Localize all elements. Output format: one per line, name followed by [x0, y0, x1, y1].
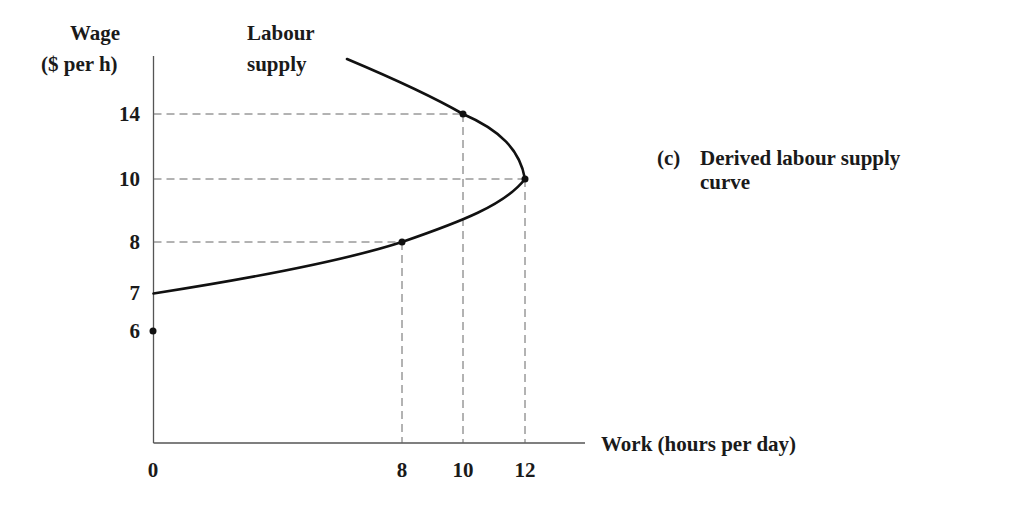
point-10-14 — [460, 111, 467, 118]
point-12-10 — [522, 176, 529, 183]
y-tick-7: 7 — [100, 281, 140, 305]
caption-line2: curve — [700, 170, 750, 194]
point-0-6 — [150, 328, 157, 335]
y-tick-14: 14 — [100, 102, 140, 126]
y-axis-label-line1: Wage — [70, 21, 120, 45]
y-axis-label-line2: ($ per h) — [41, 52, 118, 76]
y-tick-8: 8 — [100, 230, 140, 254]
x-tick-10: 10 — [443, 458, 483, 482]
y-tick-6: 6 — [100, 319, 140, 343]
point-8-8 — [399, 239, 406, 246]
x-tick-8: 8 — [382, 458, 422, 482]
chart-canvas — [0, 0, 1015, 526]
guide-lines — [154, 114, 526, 443]
x-axis-label: Work (hours per day) — [601, 432, 796, 456]
series-label-line2: supply — [247, 52, 307, 76]
x-tick-0: 0 — [133, 458, 173, 482]
panel-label: (c) — [657, 146, 680, 170]
x-tick-12: 12 — [505, 458, 545, 482]
y-tick-10: 10 — [100, 167, 140, 191]
labour-supply-curve — [154, 59, 526, 294]
series-label-line1: Labour — [247, 21, 315, 45]
caption-line1: Derived labour supply — [700, 146, 900, 170]
